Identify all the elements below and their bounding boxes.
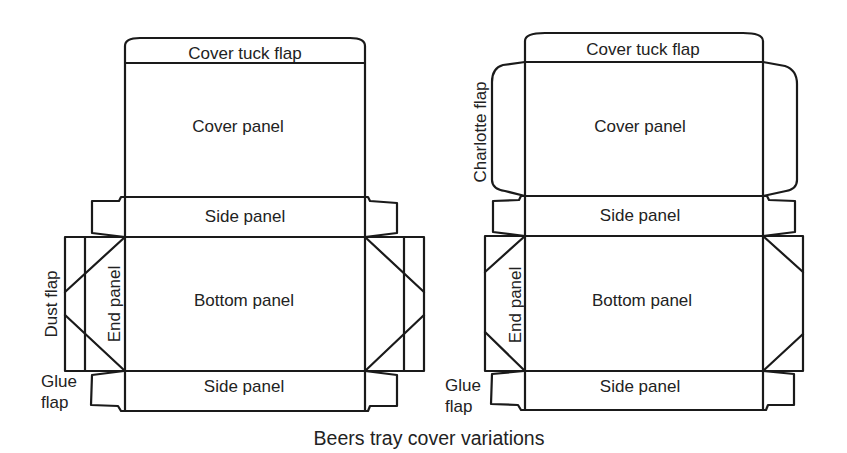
beers-tray-diagram: Cover tuck flap Cover panel Side panel B…	[0, 0, 847, 453]
right-cover-tuck-flap-label: Cover tuck flap	[586, 40, 699, 59]
left-end-panel-right	[365, 237, 424, 371]
left-end-panel-label: End panel	[105, 266, 124, 343]
right-top-right-flap	[763, 196, 795, 236]
right-glue-flap-label-2: flap	[445, 397, 472, 416]
left-variant: Cover tuck flap Cover panel Side panel B…	[41, 38, 424, 412]
left-bottom-panel-label: Bottom panel	[194, 291, 294, 310]
right-bottom-right-glue-flap	[763, 371, 794, 410]
diagram-caption: Beers tray cover variations	[314, 427, 545, 449]
right-end-diagonals-right	[763, 236, 803, 371]
right-charlotte-flap-label: Charlotte flap	[471, 81, 490, 182]
right-charlotte-flap-right	[763, 62, 797, 196]
left-bottom-right-glue-flap	[365, 371, 397, 411]
right-top-left-flap	[493, 196, 525, 236]
right-end-panel-right	[763, 236, 803, 371]
left-glue-flap-label-2: flap	[41, 393, 68, 412]
left-cover-panel-label: Cover panel	[192, 117, 284, 136]
left-end-diagonals-right	[365, 237, 424, 371]
left-glue-flap-label-1: Glue	[41, 372, 77, 391]
left-dust-flap-label: Dust flap	[42, 270, 61, 337]
right-side-panel-top-label: Side panel	[600, 206, 680, 225]
left-bottom-left-glue-flap	[91, 371, 125, 411]
right-charlotte-flap-left	[492, 62, 525, 196]
right-glue-flap-label-1: Glue	[445, 376, 481, 395]
right-fold-lines	[525, 62, 763, 410]
left-top-left-flap	[92, 197, 125, 237]
left-fold-lines	[125, 63, 365, 411]
right-end-panel-label: End panel	[506, 267, 525, 344]
left-cover-tuck-flap-label: Cover tuck flap	[188, 44, 301, 63]
right-bottom-panel-label: Bottom panel	[592, 291, 692, 310]
left-side-panel-bottom-label: Side panel	[204, 377, 284, 396]
right-bottom-left-glue-flap	[491, 371, 525, 410]
right-side-panel-bottom-label: Side panel	[600, 377, 680, 396]
right-variant: Cover tuck flap Cover panel Side panel B…	[445, 33, 803, 416]
left-side-panel-top-label: Side panel	[205, 207, 285, 226]
right-cover-panel-label: Cover panel	[594, 117, 686, 136]
left-top-right-flap	[365, 197, 397, 237]
